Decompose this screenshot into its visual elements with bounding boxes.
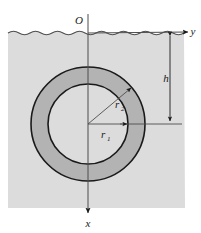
y-axis-label: y (190, 25, 196, 37)
radius-inner-label-subscript: 1 (107, 135, 111, 143)
radius-outer-label-base: r (115, 98, 120, 110)
origin-label: O (75, 14, 83, 26)
annular-plate-diagram: O y x h r 2 r 1 (0, 0, 201, 233)
depth-label: h (163, 72, 169, 84)
figure-container: O y x h r 2 r 1 (0, 0, 201, 233)
radius-outer-label-subscript: 2 (121, 105, 125, 113)
x-axis-label: x (85, 217, 91, 229)
radius-inner-label-base: r (101, 128, 106, 140)
